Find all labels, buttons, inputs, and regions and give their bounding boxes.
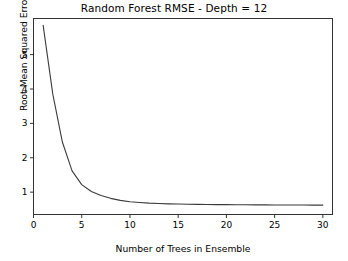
chart-figure: Random Forest RMSE - Depth = 12 05101520… <box>0 0 348 261</box>
x-axis-label: Number of Trees in Ensemble <box>33 243 333 254</box>
x-tick-label: 30 <box>317 220 328 230</box>
y-tick-marks <box>30 55 34 193</box>
x-tick-label: 5 <box>79 220 85 230</box>
x-tick-label: 20 <box>221 220 232 230</box>
x-tick-label: 10 <box>124 220 135 230</box>
x-tick-marks <box>34 215 323 219</box>
y-tick-label: 2 <box>12 153 28 163</box>
y-axis-label: Root Mean Squared Error <box>18 0 29 139</box>
plot-frame <box>34 19 333 215</box>
x-tick-label: 25 <box>269 220 280 230</box>
x-tick-label: 15 <box>172 220 183 230</box>
x-tick-label: 0 <box>31 220 37 230</box>
y-tick-label: 1 <box>12 187 28 197</box>
